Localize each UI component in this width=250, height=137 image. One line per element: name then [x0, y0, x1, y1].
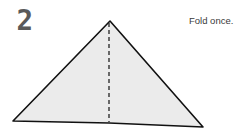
paper-triangle	[13, 21, 203, 127]
diagram-step: 2 Fold once.	[0, 0, 250, 137]
folded-triangle-illustration	[0, 0, 250, 137]
